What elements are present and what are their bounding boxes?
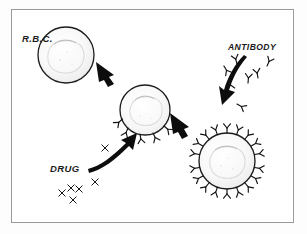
cell-speck <box>232 168 233 169</box>
cell-speck <box>220 165 222 167</box>
antibody-molecule-y <box>253 68 261 78</box>
label-drug: DRUG <box>50 163 80 174</box>
drug-molecule-x <box>59 190 65 196</box>
drug-molecule-x <box>76 186 82 192</box>
label-rbc: R.B.C. <box>22 33 53 44</box>
cell-speck <box>150 117 151 118</box>
bound-antibody-marker <box>190 164 200 172</box>
figure-illustration: R.B.C. <box>0 0 307 234</box>
arrow-stage1-to-stage2 <box>96 62 114 87</box>
bound-antibody-marker <box>254 150 264 158</box>
arrow-stage2-to-stage3 <box>170 113 189 139</box>
bound-antibody-marker <box>254 164 264 172</box>
stage-2-cell-group <box>113 85 173 144</box>
cell-speck <box>139 115 140 116</box>
free-drug-particles <box>59 145 108 203</box>
cell-speck <box>227 157 228 158</box>
antibody-molecule-y <box>245 74 253 84</box>
cell-speck <box>59 59 61 61</box>
arrow-drug-to-cell <box>88 133 137 173</box>
figure-root: R.B.C. <box>0 0 307 234</box>
antibody-molecule-y <box>264 56 274 67</box>
rbc-antibody-coated-cell <box>199 133 255 189</box>
drug-molecule-x <box>68 185 74 191</box>
bound-antibody-marker <box>224 124 231 133</box>
drug-molecule-x <box>102 145 108 151</box>
antibody-molecule-y <box>221 64 231 75</box>
drug-molecule-x <box>70 197 76 203</box>
antibody-molecule-y <box>235 101 246 111</box>
arrow-antibody-to-cell <box>219 55 247 105</box>
bound-antibody-marker <box>190 150 200 158</box>
cell-speck <box>71 63 72 64</box>
label-antibody: ANTIBODY <box>227 42 277 52</box>
stage-3-cell-group <box>190 124 265 198</box>
drug-molecule-x <box>92 179 98 185</box>
bound-antibody-marker <box>224 189 231 198</box>
cell-speck <box>66 51 67 52</box>
